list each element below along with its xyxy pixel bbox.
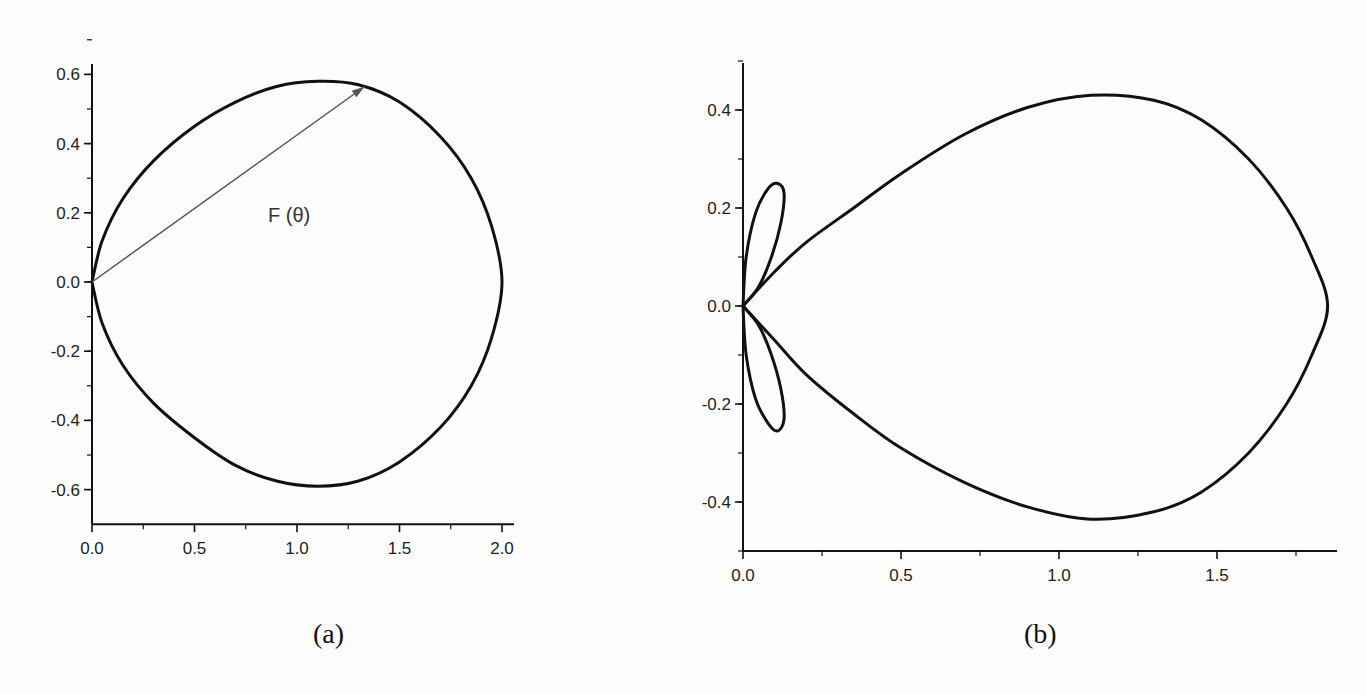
- chart-panel-b: -0.4-0.20.00.20.40.00.51.01.5: [702, 61, 1337, 585]
- x-tick-label: 1.5: [1205, 566, 1229, 585]
- pattern-curve: [92, 81, 502, 486]
- x-tick-label: 0.0: [80, 539, 104, 558]
- y-tick-label: -0.2: [702, 395, 731, 414]
- pattern-curve: [743, 306, 784, 431]
- y-tick-label: 0.4: [707, 101, 731, 120]
- pattern-curve: [743, 95, 1328, 519]
- y-tick-label: -0.2: [51, 342, 80, 361]
- y-tick-label: 0.0: [707, 297, 731, 316]
- panel-label-a: (a): [313, 618, 344, 650]
- y-tick-label: 0.4: [56, 135, 80, 154]
- x-tick-label: 0.5: [889, 566, 913, 585]
- y-tick-label: 0.6: [56, 65, 80, 84]
- y-tick-label: 0.2: [56, 204, 80, 223]
- y-tick-label: 0.2: [707, 199, 731, 218]
- y-tick-label: -0.4: [702, 493, 731, 512]
- y-tick-label: -0.6: [51, 481, 80, 500]
- x-tick-label: 1.5: [388, 539, 412, 558]
- chart-panel-a: -0.6-0.4-0.20.00.20.40.60.00.51.01.52.0F…: [51, 40, 514, 558]
- panel-label-b: (b): [1024, 618, 1057, 650]
- annotation-label: F (θ): [268, 204, 310, 226]
- figure-canvas: -0.6-0.4-0.20.00.20.40.60.00.51.01.52.0F…: [0, 0, 1367, 695]
- arrowhead-icon: [352, 87, 365, 98]
- pattern-curve: [743, 183, 784, 306]
- y-tick-label: -0.4: [51, 411, 80, 430]
- x-tick-label: 2.0: [490, 539, 514, 558]
- x-tick-label: 0.0: [731, 566, 755, 585]
- x-tick-label: 1.0: [285, 539, 309, 558]
- x-tick-label: 0.5: [183, 539, 207, 558]
- x-tick-label: 1.0: [1047, 566, 1071, 585]
- y-tick-label: 0.0: [56, 273, 80, 292]
